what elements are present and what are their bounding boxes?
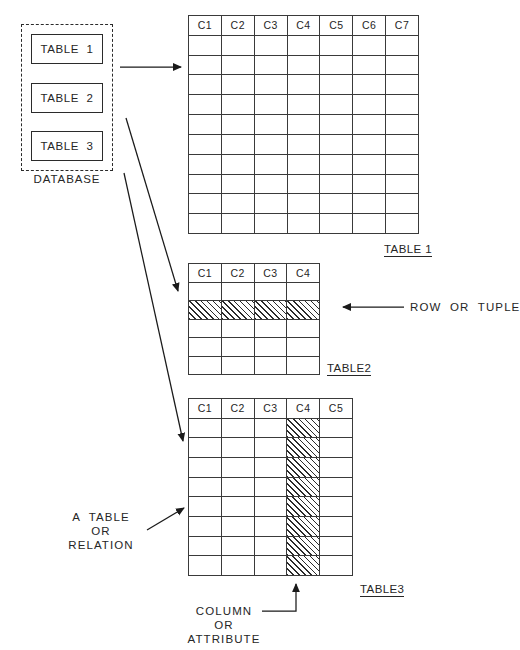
table3-header-c4[interactable]: C4 bbox=[287, 399, 320, 419]
table1-cell bbox=[353, 175, 386, 195]
table3-highlighted-column-cell bbox=[287, 478, 320, 498]
table3-cell bbox=[222, 438, 255, 458]
table1-cell bbox=[386, 56, 419, 76]
database-table-3[interactable]: TABLE 3 bbox=[31, 131, 103, 161]
table3-header-c2[interactable]: C2 bbox=[222, 399, 255, 419]
table1-cell bbox=[222, 155, 255, 175]
annotation-row-or-tuple: ROW OR TUPLE bbox=[410, 300, 520, 314]
table3-header-c1[interactable]: C1 bbox=[189, 399, 222, 419]
table1-cell bbox=[353, 75, 386, 95]
table2-label: TABLE2 bbox=[327, 362, 371, 376]
table2-cell bbox=[222, 357, 255, 376]
table1-cell bbox=[288, 194, 321, 214]
table1-cell bbox=[255, 56, 288, 76]
table3-highlighted-column-cell bbox=[287, 497, 320, 517]
table1-cell bbox=[288, 56, 321, 76]
table2-cell bbox=[189, 338, 222, 357]
table3-cell bbox=[320, 478, 353, 498]
table2-grid[interactable]: C1C2C3C4 bbox=[188, 263, 320, 375]
table1-cell bbox=[288, 175, 321, 195]
table1-cell bbox=[189, 95, 222, 115]
table1-header-c2[interactable]: C2 bbox=[222, 16, 255, 36]
table1-cell bbox=[255, 175, 288, 195]
table1-header-c4[interactable]: C4 bbox=[288, 16, 321, 36]
table1-header-c1[interactable]: C1 bbox=[189, 16, 222, 36]
table3-cell bbox=[189, 517, 222, 537]
table1-cell bbox=[386, 214, 419, 234]
table2-cell bbox=[287, 338, 320, 357]
table3-cell bbox=[255, 438, 288, 458]
table1-cell bbox=[353, 56, 386, 76]
table3-cell bbox=[189, 537, 222, 557]
table1-grid[interactable]: C1C2C3C4C5C6C7 bbox=[188, 15, 419, 234]
table1-cell bbox=[189, 75, 222, 95]
table1-cell bbox=[288, 135, 321, 155]
table3-cell bbox=[255, 419, 288, 439]
arrow-database-to-table2 bbox=[126, 118, 178, 291]
table2-cell bbox=[222, 338, 255, 357]
table2-header-c1[interactable]: C1 bbox=[189, 264, 222, 283]
table1-cell bbox=[189, 175, 222, 195]
database-table-2[interactable]: TABLE 2 bbox=[31, 83, 103, 113]
table1-cell bbox=[189, 115, 222, 135]
table2-cell bbox=[255, 357, 288, 376]
table2-highlighted-row-cell bbox=[255, 301, 288, 320]
database-caption: DATABASE bbox=[21, 173, 113, 185]
table1-cell bbox=[320, 175, 353, 195]
table3-cell bbox=[320, 497, 353, 517]
table1-cell bbox=[386, 135, 419, 155]
arrow-database-to-table3 bbox=[124, 173, 183, 441]
table1-cell bbox=[353, 155, 386, 175]
arrow-column-or-attribute bbox=[262, 584, 296, 611]
table1-header-c3[interactable]: C3 bbox=[255, 16, 288, 36]
table1-cell bbox=[255, 95, 288, 115]
table1-cell bbox=[320, 56, 353, 76]
table3-grid[interactable]: C1C2C3C4C5 bbox=[188, 398, 353, 576]
table1-cell bbox=[189, 214, 222, 234]
table3-cell bbox=[189, 419, 222, 439]
arrow-a-table-or-relation bbox=[147, 508, 184, 530]
table1-header-c5[interactable]: C5 bbox=[320, 16, 353, 36]
table2-cell bbox=[287, 283, 320, 302]
table1-cell bbox=[353, 95, 386, 115]
table1-cell bbox=[222, 75, 255, 95]
table1-cell bbox=[255, 135, 288, 155]
table1-cell bbox=[320, 95, 353, 115]
table2-header-c2[interactable]: C2 bbox=[222, 264, 255, 283]
table2-header-c3[interactable]: C3 bbox=[255, 264, 288, 283]
table1-cell bbox=[386, 194, 419, 214]
table1-cell bbox=[189, 135, 222, 155]
table3-cell bbox=[222, 517, 255, 537]
table2-cell bbox=[222, 320, 255, 339]
table1-cell bbox=[320, 36, 353, 56]
table1-cell bbox=[288, 214, 321, 234]
table1-cell bbox=[353, 194, 386, 214]
table3-cell bbox=[189, 556, 222, 576]
annotation-a-table-or-relation: A TABLE OR RELATION bbox=[55, 510, 147, 552]
table1-header-c6[interactable]: C6 bbox=[353, 16, 386, 36]
table1-header-c7[interactable]: C7 bbox=[386, 16, 419, 36]
table3-highlighted-column-cell bbox=[287, 556, 320, 576]
table2-cell bbox=[189, 357, 222, 376]
table1-cell bbox=[222, 135, 255, 155]
table3-cell bbox=[255, 556, 288, 576]
table1-cell bbox=[320, 115, 353, 135]
table1-cell bbox=[255, 214, 288, 234]
table1-cell bbox=[255, 155, 288, 175]
table2-highlighted-row-cell bbox=[189, 301, 222, 320]
table2-header-c4[interactable]: C4 bbox=[287, 264, 320, 283]
table1-cell bbox=[255, 194, 288, 214]
table3-header-c5[interactable]: C5 bbox=[320, 399, 353, 419]
table3-highlighted-column-cell bbox=[287, 458, 320, 478]
table3-cell bbox=[222, 419, 255, 439]
table3-cell bbox=[320, 438, 353, 458]
table3-cell bbox=[255, 478, 288, 498]
database-table-1[interactable]: TABLE 1 bbox=[31, 34, 103, 64]
table1-cell bbox=[320, 135, 353, 155]
table3-cell bbox=[189, 497, 222, 517]
table3-cell bbox=[320, 517, 353, 537]
table2-cell bbox=[255, 320, 288, 339]
table3-header-c3[interactable]: C3 bbox=[255, 399, 288, 419]
table3-highlighted-column-cell bbox=[287, 419, 320, 439]
table1-cell bbox=[222, 36, 255, 56]
